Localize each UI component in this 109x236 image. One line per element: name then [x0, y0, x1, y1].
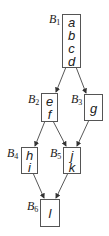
edge-b4-b6 [33, 173, 44, 198]
stmt-f: f [42, 108, 57, 121]
block-label-b6: B6 [27, 200, 38, 216]
stmt-g: g [85, 102, 102, 115]
block-label-b4: B4 [7, 147, 18, 163]
edge-b2-b4 [35, 121, 45, 146]
block-b1: a b c d [62, 14, 81, 68]
stmt-i: i [22, 161, 37, 174]
block-b2: e f [41, 93, 58, 122]
edge-b3-b5 [77, 120, 89, 146]
block-label-b3: B3 [71, 93, 82, 109]
stmt-d: d [63, 55, 80, 68]
edge-b2-b5 [53, 121, 66, 146]
stmt-k: k [64, 161, 80, 174]
block-label-b1: B1 [49, 13, 60, 29]
block-label-b2: B2 [28, 93, 39, 109]
edge-b5-b6 [56, 173, 68, 198]
block-b6: l [40, 199, 60, 227]
edge-b1-b2 [56, 67, 66, 92]
block-b3: g [84, 94, 103, 121]
edge-b1-b3 [76, 67, 86, 93]
stmt-l: l [41, 207, 59, 220]
block-label-b5: B5 [50, 147, 61, 163]
block-b4: h i [21, 147, 38, 174]
block-b5: j k [63, 147, 81, 174]
